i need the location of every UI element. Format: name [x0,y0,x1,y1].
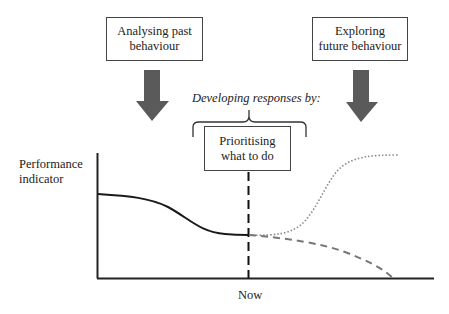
exploring-future-line1: Exploring [319,24,402,39]
prioritising-line2: what to do [219,149,275,164]
down-arrow-icon-left [136,70,169,121]
y-axis-label-line2: indicator [19,172,83,187]
exploring-future-line2: future behaviour [319,39,402,54]
analysing-past-line2: behaviour [117,39,192,54]
exploring-future-box: Exploring future behaviour [312,17,408,61]
analysing-past-box: Analysing past behaviour [106,17,203,61]
now-label: Now [238,288,262,303]
declining-future-line [249,235,393,278]
prioritising-box: Prioritising what to do [204,126,291,171]
down-arrow-icon-right [346,70,378,122]
y-axis-label: Performance indicator [19,157,83,187]
prioritising-line1: Prioritising [219,134,275,149]
past-performance-line [98,194,248,235]
developing-responses-caption: Developing responses by: [192,91,321,106]
analysing-past-line1: Analysing past [117,24,192,39]
y-axis-label-line1: Performance [19,157,83,172]
